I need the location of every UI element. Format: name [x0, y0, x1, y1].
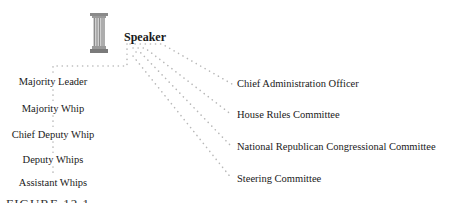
steering-committee-node: Steering Committee	[237, 174, 321, 185]
majority-whip-node: Majority Whip	[22, 104, 85, 115]
pillar-icon	[89, 13, 109, 53]
chief-administration-officer-node: Chief Administration Officer	[237, 79, 359, 90]
deputy-whips-node: Deputy Whips	[23, 155, 84, 166]
speaker-node: Speaker	[124, 31, 166, 43]
assistant-whips-node: Assistant Whips	[19, 178, 87, 189]
nrcc-node: National Republican Congressional Commit…	[237, 142, 436, 153]
majority-leader-node: Majority Leader	[19, 77, 88, 88]
chief-deputy-whip-node: Chief Deputy Whip	[12, 130, 95, 141]
house-rules-committee-node: House Rules Committee	[237, 110, 340, 121]
figure-caption: FIGURE 12.1	[6, 196, 90, 203]
connector-lines	[0, 0, 453, 203]
